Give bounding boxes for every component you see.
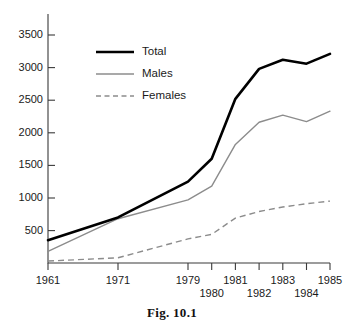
x-tick-label-1982: 1982	[247, 287, 271, 299]
y-tick-label-1000: 1000	[19, 191, 43, 203]
x-tick-label-1961: 1961	[36, 274, 60, 286]
y-tick-label-1500: 1500	[19, 158, 43, 170]
legend-label-males: Males	[142, 67, 173, 79]
y-tick-marks	[48, 35, 55, 231]
y-tick-label-500: 500	[25, 224, 43, 236]
line-chart: 3500 3000 2500 2000 1500 1000 500 1961 1…	[0, 0, 344, 329]
y-tick-label-2000: 2000	[19, 126, 43, 138]
chart-legend: Total Males Females	[96, 45, 186, 101]
x-tick-label-1980: 1980	[199, 287, 223, 299]
x-tick-marks	[48, 263, 330, 270]
x-tick-label-1971: 1971	[106, 274, 130, 286]
y-tick-label-3500: 3500	[19, 28, 43, 40]
legend-label-females: Females	[142, 89, 186, 101]
x-tick-label-1984: 1984	[294, 287, 318, 299]
x-tick-label-1979: 1979	[176, 274, 200, 286]
figure-caption: Fig. 10.1	[0, 305, 344, 321]
legend-label-total: Total	[142, 45, 166, 57]
y-tick-label-3000: 3000	[19, 61, 43, 73]
series-line-total	[48, 54, 330, 240]
x-tick-label-1981: 1981	[223, 274, 247, 286]
figure-container: 3500 3000 2500 2000 1500 1000 500 1961 1…	[0, 0, 344, 329]
x-tick-label-1983: 1983	[271, 274, 295, 286]
x-tick-label-1985: 1985	[318, 274, 342, 286]
y-tick-label-2500: 2500	[19, 93, 43, 105]
